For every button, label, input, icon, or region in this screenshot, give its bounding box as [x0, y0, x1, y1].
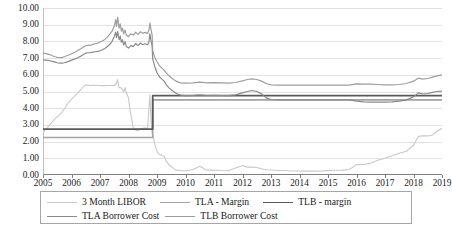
x-axis-tick-label: 2005 — [34, 179, 53, 188]
series-line — [43, 100, 442, 138]
x-axis-tick-label: 2016 — [347, 179, 366, 188]
chart-legend: 3 Month LIBORTLA - MarginTLB - marginTLA… — [40, 191, 412, 224]
x-axis-tick-label: 2006 — [62, 179, 81, 188]
x-axis-tick-label: 2018 — [404, 179, 423, 188]
legend-label: TLB - margin — [298, 197, 351, 207]
y-axis-tick-label: 1.00 — [23, 154, 39, 163]
series-line — [43, 17, 442, 85]
y-axis-tick-label: 7.00 — [23, 54, 39, 63]
legend-item-tla-borrower-cost[interactable]: TLA Borrower Cost — [47, 211, 159, 221]
legend-label: TLA Borrower Cost — [82, 211, 159, 221]
x-axis-tick-label: 2012 — [233, 179, 252, 188]
legend-item-3-month-libor[interactable]: 3 Month LIBOR — [47, 197, 146, 207]
series-layer — [43, 8, 442, 175]
legend-row: 3 Month LIBORTLA - MarginTLB - margin — [47, 195, 405, 209]
y-axis-tick-label: 4.00 — [23, 104, 39, 113]
chart-area: 10.009.008.007.006.005.004.003.002.001.0… — [0, 0, 452, 190]
series-line — [43, 31, 442, 102]
x-axis-labels: 2005200620072008200920102011201220132014… — [43, 177, 442, 191]
x-axis-tick-label: 2010 — [176, 179, 195, 188]
y-axis-tick-label: 8.00 — [23, 37, 39, 46]
y-axis-tick-label: 6.00 — [23, 70, 39, 79]
legend-label: TLA - Margin — [195, 197, 249, 207]
x-axis-tick-label: 2014 — [290, 179, 309, 188]
x-axis-tick-label: 2017 — [376, 179, 395, 188]
y-axis-tick-label: 5.00 — [23, 87, 39, 96]
y-axis-tick-label: 9.00 — [23, 20, 39, 29]
x-axis-tick-label: 2011 — [205, 179, 223, 188]
legend-item-tla-margin[interactable]: TLA - Margin — [160, 197, 249, 207]
legend-swatch — [160, 202, 190, 203]
legend-swatch — [47, 202, 77, 203]
legend-item-tlb-borrower-cost[interactable]: TLB Borrower Cost — [165, 211, 277, 221]
legend-row: TLA Borrower CostTLB Borrower Cost — [47, 209, 405, 223]
legend-label: TLB Borrower Cost — [200, 211, 277, 221]
legend-swatch — [47, 216, 77, 217]
x-axis-tick-label: 2013 — [262, 179, 281, 188]
legend-label: 3 Month LIBOR — [82, 197, 146, 207]
legend-swatch — [165, 216, 195, 217]
y-axis-labels: 10.009.008.007.006.005.004.003.002.001.0… — [0, 0, 39, 190]
y-axis-tick-label: 3.00 — [23, 120, 39, 129]
legend-swatch — [263, 202, 293, 203]
x-axis-tick-label: 2007 — [91, 179, 110, 188]
x-axis-tick-label: 2015 — [319, 179, 338, 188]
y-axis-tick-label: 2.00 — [23, 137, 39, 146]
x-axis-tick-label: 2019 — [433, 179, 452, 188]
x-axis-tick-label: 2008 — [119, 179, 138, 188]
series-line — [43, 96, 442, 129]
chart-figure: 10.009.008.007.006.005.004.003.002.001.0… — [0, 0, 452, 237]
legend-item-tlb-margin[interactable]: TLB - margin — [263, 197, 351, 207]
y-axis-tick-label: 10.00 — [18, 4, 39, 13]
x-axis-tick-label: 2009 — [148, 179, 167, 188]
